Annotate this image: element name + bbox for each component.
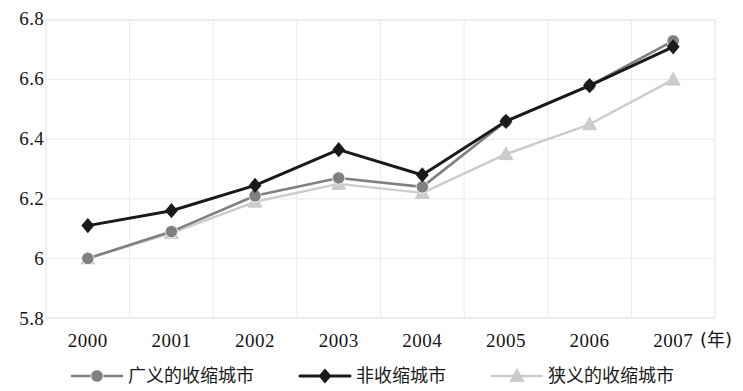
gridlines (46, 20, 715, 318)
diamond-marker-icon (583, 78, 596, 93)
diamond-marker-icon (499, 114, 512, 129)
x-tick-label: 2002 (235, 331, 275, 350)
legend-label: 非收缩城市 (356, 367, 446, 385)
diamond-marker-icon (81, 218, 94, 233)
legend-item[interactable]: 广义的收缩城市 (70, 367, 254, 385)
triangle-marker-icon (583, 117, 597, 130)
circle-marker-icon (70, 367, 124, 385)
plot-area (0, 0, 743, 391)
diamond-marker-icon (332, 142, 345, 157)
legend-label: 狭义的收缩城市 (548, 367, 674, 385)
x-axis-unit-label: (年) (700, 331, 732, 349)
circle-marker-icon (165, 225, 177, 237)
x-tick-label: 2003 (319, 331, 359, 350)
legend-item[interactable]: 狭义的收缩城市 (490, 367, 674, 385)
x-tick-label: 2000 (68, 331, 108, 350)
legend-item[interactable]: 非收缩城市 (298, 367, 446, 385)
diamond-marker-icon (416, 167, 429, 182)
chart-figure: 6.8 6.6 6.4 6.2 6 5.8 200020012002200320… (0, 0, 743, 391)
circle-marker-icon (82, 252, 94, 264)
diamond-marker-icon (165, 203, 178, 218)
triangle-marker-icon (666, 72, 680, 85)
x-tick-label: 2004 (402, 331, 442, 350)
x-tick-label: 2005 (486, 331, 526, 350)
diamond-marker-icon (298, 367, 352, 385)
diamond-marker-icon (249, 178, 262, 193)
circle-marker-icon (332, 172, 344, 184)
diamond-marker-icon (318, 368, 331, 383)
x-tick-label: 2006 (570, 331, 610, 350)
legend-label: 广义的收缩城市 (128, 367, 254, 385)
x-tick-label: 2007 (653, 331, 693, 350)
chart-legend: 广义的收缩城市非收缩城市狭义的收缩城市 (0, 360, 743, 391)
triangle-marker-icon (490, 367, 544, 385)
x-tick-label: 2001 (151, 331, 191, 350)
circle-marker-icon (90, 369, 102, 381)
